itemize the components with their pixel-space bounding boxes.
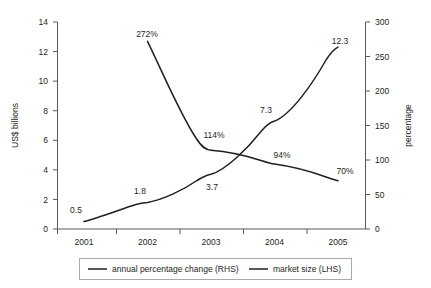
right-axis: 300 250 200 150 100 50 0 percentage (366, 17, 414, 234)
left-tick-label-8: 8 (43, 106, 48, 116)
data-label-market-size-2002: 1.8 (134, 186, 146, 196)
right-tick-label-0: 0 (375, 224, 380, 234)
right-tick-label-50: 50 (375, 190, 385, 200)
data-labels: 0.5 1.8 3.7 7.3 12.3 272% 114% 94% 70% (70, 29, 354, 215)
left-tick-label-10: 10 (39, 76, 49, 86)
percentage-change-line (148, 41, 339, 180)
chart-legend: annual percentage change (RHS) market si… (80, 259, 352, 280)
left-tick-label-6: 6 (43, 135, 48, 145)
data-label-pct-change-2005: 70% (336, 166, 353, 176)
data-label-pct-change-2002: 272% (136, 29, 158, 39)
left-axis-title: US$ billions (10, 103, 20, 148)
right-tick-label-200: 200 (375, 86, 389, 96)
data-label-market-size-2005: 12.3 (332, 36, 349, 46)
data-label-pct-change-2003: 114% (203, 130, 225, 140)
left-axis: 14 12 10 8 6 4 2 0 US$ billions (10, 17, 58, 234)
right-tick-label-300: 300 (375, 17, 389, 27)
right-axis-title: percentage (403, 104, 413, 147)
right-tick-label-150: 150 (375, 121, 389, 131)
x-tick-label-2001: 2001 (75, 237, 94, 247)
series-annual-percentage-change (148, 41, 339, 180)
x-tick-label-2003: 2003 (202, 237, 221, 247)
data-label-pct-change-2004: 94% (273, 150, 290, 160)
x-tick-label-2004: 2004 (265, 237, 284, 247)
right-tick-label-250: 250 (375, 52, 389, 62)
left-tick-label-12: 12 (39, 47, 49, 57)
right-tick-label-100: 100 (375, 155, 389, 165)
dual-axis-line-chart: 14 12 10 8 6 4 2 0 US$ billions 300 250 … (0, 0, 431, 288)
legend-label-annual-percentage-change[interactable]: annual percentage change (RHS) (112, 264, 239, 274)
left-tick-label-0: 0 (43, 224, 48, 234)
legend-label-market-size[interactable]: market size (LHS) (273, 264, 341, 274)
x-tick-label-2002: 2002 (138, 237, 157, 247)
left-tick-label-4: 4 (43, 165, 48, 175)
data-label-market-size-2004: 7.3 (260, 105, 272, 115)
data-label-market-size-2001: 0.5 (70, 205, 82, 215)
data-label-market-size-2003: 3.7 (206, 182, 218, 192)
left-tick-label-2: 2 (43, 195, 48, 205)
x-tick-label-2005: 2005 (329, 237, 348, 247)
left-tick-label-14: 14 (39, 17, 49, 27)
x-axis: 2001 2002 2003 2004 2005 (58, 229, 366, 247)
chart-container: 14 12 10 8 6 4 2 0 US$ billions 300 250 … (0, 0, 431, 288)
